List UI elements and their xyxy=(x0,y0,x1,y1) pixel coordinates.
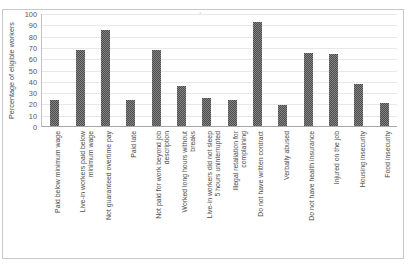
plot-area xyxy=(41,14,397,127)
chart-container: ° Percentage of eligible workers 1009080… xyxy=(2,9,404,259)
bar[interactable] xyxy=(126,100,135,126)
y-axis-tick-label: 100 xyxy=(25,10,37,19)
bar[interactable] xyxy=(152,50,161,126)
x-label-slot: Verbally abused xyxy=(270,130,295,254)
y-axis-tick-label: 40 xyxy=(29,77,37,86)
bar[interactable] xyxy=(228,100,237,126)
bar-slot xyxy=(372,14,397,126)
bar-slot xyxy=(194,14,219,126)
x-label-slot: Paid late xyxy=(117,130,142,254)
bar[interactable] xyxy=(76,50,85,126)
x-label-slot: Do not have health insurance xyxy=(295,130,320,254)
bar-slot xyxy=(169,14,194,126)
y-axis-tick-label: 70 xyxy=(29,43,37,52)
bar[interactable] xyxy=(354,84,363,126)
x-label-slot: Injured on the job xyxy=(321,130,346,254)
bar-slot xyxy=(143,14,168,126)
x-label-slot: Not paid for work beyond job description xyxy=(143,130,168,254)
bar-slot xyxy=(93,14,118,126)
bar[interactable] xyxy=(101,30,110,126)
y-axis-tick-label: 60 xyxy=(29,55,37,64)
bar[interactable] xyxy=(329,54,338,126)
y-axis-tick-label: 90 xyxy=(29,21,37,30)
x-axis-tick-label: Not guaranteed overtime pay xyxy=(105,130,113,248)
y-axis-tick-label: 10 xyxy=(29,111,37,120)
y-axis-tick-label: 30 xyxy=(29,89,37,98)
x-label-slot: Paid below minimum wage xyxy=(41,130,66,254)
plot-wrapper: 1009080706050403020100 Paid below minimu… xyxy=(18,14,400,254)
bar[interactable] xyxy=(177,86,186,126)
bar[interactable] xyxy=(202,98,211,126)
x-label-slot: Not guaranteed overtime pay xyxy=(92,130,117,254)
bar-slot xyxy=(67,14,92,126)
bar-slot xyxy=(220,14,245,126)
bar-slot xyxy=(42,14,67,126)
y-axis-tick-label: 0 xyxy=(33,123,37,132)
y-axis-title: Percentage of eligible workers xyxy=(4,10,18,130)
x-label-slot: Illegal retaliation for complaining xyxy=(219,130,244,254)
x-label-slot: Live-in workers did not sleep 5 hours un… xyxy=(194,130,219,254)
bar-slot xyxy=(118,14,143,126)
x-axis-tick-label: Food insecurity xyxy=(384,130,392,248)
bar[interactable] xyxy=(50,100,59,126)
x-axis-tick-label: Do not have written contract xyxy=(257,130,265,248)
y-axis-title-text: Percentage of eligible workers xyxy=(7,22,16,119)
x-label-slot: Live-in workers paid below minimum wage xyxy=(66,130,91,254)
bar-slot xyxy=(270,14,295,126)
x-axis-tick-label: Injured on the job xyxy=(333,130,341,248)
x-axis-tick-label: Housing insecurity xyxy=(359,130,367,248)
x-label-slot: Food insecurity xyxy=(371,130,396,254)
bar[interactable] xyxy=(253,22,262,126)
bar-slot xyxy=(346,14,371,126)
y-axis-tick-label: 20 xyxy=(29,100,37,109)
bar-slot xyxy=(296,14,321,126)
bar[interactable] xyxy=(380,103,389,126)
x-axis-labels: Paid below minimum wageLive-in workers p… xyxy=(41,130,397,254)
x-label-slot: Do not have written contract xyxy=(244,130,269,254)
y-axis-tick-label: 50 xyxy=(29,66,37,75)
x-label-slot: Worked long hours without breaks xyxy=(168,130,193,254)
y-axis-tick-label: 80 xyxy=(29,32,37,41)
x-axis-tick-label: Do not have health insurance xyxy=(308,130,316,248)
bar-slot xyxy=(245,14,270,126)
x-axis-tick-label: Paid below minimum wage xyxy=(54,130,62,248)
x-axis-tick-label: Verbally abused xyxy=(283,130,291,248)
x-axis-tick-label: Paid late xyxy=(130,130,138,248)
y-axis-ticks: 1009080706050403020100 xyxy=(18,14,39,127)
bar[interactable] xyxy=(278,105,287,126)
bar[interactable] xyxy=(304,53,313,126)
x-label-slot: Housing insecurity xyxy=(346,130,371,254)
bar-slot xyxy=(321,14,346,126)
bars-layer xyxy=(42,14,397,126)
